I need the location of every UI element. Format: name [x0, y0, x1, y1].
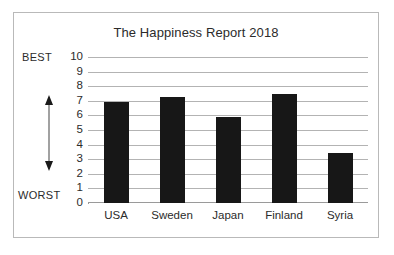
x-axis-tick-label-usa: USA [104, 209, 128, 221]
chart-figure: The Happiness Report 2018 BEST WORST 012… [0, 0, 394, 255]
x-axis-tick-label-japan: Japan [212, 209, 243, 221]
y-axis-tick-label: 1 [77, 183, 83, 195]
gridline [88, 86, 368, 87]
y-axis-tick-label: 4 [77, 139, 83, 151]
y-axis-tick-label: 9 [77, 66, 83, 78]
y-axis-tick-label: 5 [77, 124, 83, 136]
y-axis-tick-label: 8 [77, 80, 83, 92]
bar-usa [104, 102, 129, 203]
y-axis-tick-label: 0 [77, 197, 83, 209]
y-axis-tick-label: 6 [77, 110, 83, 122]
double-arrow-icon [40, 94, 58, 172]
gridline [88, 72, 368, 73]
y-axis-tick-label: 7 [77, 95, 83, 107]
x-axis-tick-label-finland: Finland [265, 209, 303, 221]
x-axis-tick-label-sweden: Sweden [151, 209, 193, 221]
bar-finland [272, 94, 297, 204]
plot-area: 012345678910 USASwedenJapanFinlandSyria [88, 57, 368, 203]
y-axis-tick-label: 2 [77, 168, 83, 180]
axis-best-label: BEST [22, 51, 52, 63]
x-axis-tick-label-syria: Syria [327, 209, 353, 221]
bar-sweden [160, 97, 185, 203]
bar-syria [328, 153, 353, 203]
chart-title: The Happiness Report 2018 [13, 25, 379, 40]
bar-japan [216, 117, 241, 203]
y-axis-tick-label: 10 [70, 51, 83, 63]
gridline [88, 101, 368, 102]
gridline [88, 57, 368, 58]
axis-worst-label: WORST [18, 189, 60, 201]
y-axis-tick-label: 3 [77, 153, 83, 165]
